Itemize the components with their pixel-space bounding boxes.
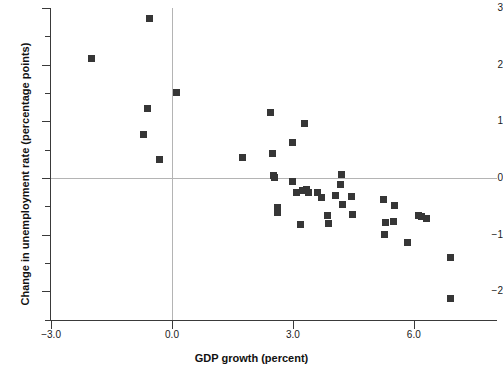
x-tick-major <box>414 320 415 329</box>
y-tick-label: 2 <box>479 60 503 70</box>
data-point-marker <box>305 189 312 196</box>
x-tick-label: −3.0 <box>31 330 71 340</box>
data-point-marker <box>274 209 281 216</box>
data-point-marker <box>140 131 147 138</box>
data-point-marker <box>271 174 278 181</box>
data-point-marker <box>339 201 346 208</box>
y-axis-title: Change in unemployment rate (percentage … <box>19 19 31 329</box>
data-point-marker <box>267 109 274 116</box>
y-tick-minor <box>45 36 51 37</box>
data-point-marker <box>318 194 325 201</box>
data-point-marker <box>447 254 454 261</box>
y-tick-minor <box>45 150 51 151</box>
y-tick-label: 3 <box>479 3 503 13</box>
x-tick-major <box>293 320 294 329</box>
y-tick-minor <box>45 320 51 321</box>
x-tick-label: 6.0 <box>394 330 434 340</box>
y-tick-major <box>42 235 51 236</box>
data-point-marker <box>289 139 296 146</box>
data-point-marker <box>156 156 163 163</box>
y-tick-label: −2 <box>479 286 503 296</box>
data-point-marker <box>380 196 387 203</box>
x-axis-title: GDP growth (percent) <box>0 352 503 364</box>
y-tick-label: 1 <box>479 116 503 126</box>
x-tick-major <box>51 320 52 329</box>
data-point-marker <box>144 105 151 112</box>
y-tick-major <box>42 178 51 179</box>
y-tick-major <box>42 8 51 9</box>
scatter-plot-figure: 3210−1−2−3.00.03.06.0 GDP growth (percen… <box>0 0 503 380</box>
y-tick-major <box>42 65 51 66</box>
data-point-marker <box>173 89 180 96</box>
y-tick-label: 0 <box>479 173 503 183</box>
data-point-marker <box>289 178 296 185</box>
data-point-marker <box>338 171 345 178</box>
data-point-marker <box>390 218 397 225</box>
data-point-marker <box>324 212 331 219</box>
data-point-marker <box>447 295 454 302</box>
data-point-marker <box>337 181 344 188</box>
data-point-marker <box>269 150 276 157</box>
y-tick-minor <box>45 206 51 207</box>
data-point-marker <box>146 15 153 22</box>
data-point-marker <box>297 221 304 228</box>
y-tick-label: −1 <box>479 230 503 240</box>
y-tick-minor <box>45 93 51 94</box>
data-point-marker <box>382 219 389 226</box>
zero-vertical-reference-line <box>172 8 173 320</box>
data-point-marker <box>239 154 246 161</box>
plot-area: 3210−1−2−3.00.03.06.0 <box>0 0 503 380</box>
data-point-marker <box>404 239 411 246</box>
data-point-marker <box>423 215 430 222</box>
x-tick-label: 0.0 <box>152 330 192 340</box>
x-axis-line <box>50 320 497 321</box>
data-point-marker <box>301 120 308 127</box>
y-axis-line <box>50 8 51 320</box>
data-point-marker <box>349 211 356 218</box>
data-point-marker <box>348 193 355 200</box>
y-tick-major <box>42 121 51 122</box>
data-point-marker <box>391 202 398 209</box>
data-point-marker <box>325 220 332 227</box>
data-point-marker <box>381 231 388 238</box>
y-tick-minor <box>45 263 51 264</box>
x-tick-label: 3.0 <box>273 330 313 340</box>
y-tick-major <box>42 291 51 292</box>
data-point-marker <box>332 192 339 199</box>
data-point-marker <box>88 55 95 62</box>
x-tick-major <box>172 320 173 329</box>
